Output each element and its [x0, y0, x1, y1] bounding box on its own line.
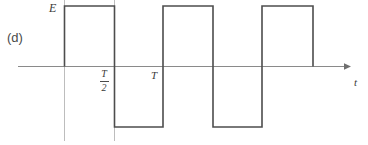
time-axis-arrowhead	[344, 63, 351, 69]
waveform-plot	[0, 0, 368, 145]
panel-label: (d)	[7, 31, 23, 44]
half-period-numerator: T	[95, 69, 113, 80]
square-wave-figure: (d) E T 2 T t	[0, 0, 368, 145]
time-axis-label: t	[354, 77, 357, 88]
amplitude-label: E	[49, 2, 56, 14]
half-period-tick-label: T 2	[95, 69, 113, 93]
half-period-denominator: 2	[95, 83, 113, 94]
period-tick-label: T	[151, 70, 157, 81]
